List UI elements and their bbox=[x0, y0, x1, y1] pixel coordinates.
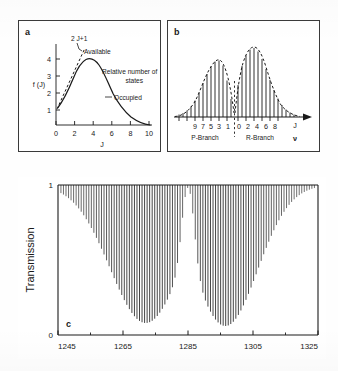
panel-b-r-tick-8: 8 bbox=[273, 122, 277, 131]
panel-c-plot: 1 0 Transmission c 1245 1265 bbox=[18, 177, 326, 359]
panel-b-plot: b bbox=[168, 21, 319, 151]
panel-a-xtick-4: 4 bbox=[91, 129, 95, 138]
panel-a-annotation-occupied: Occupied bbox=[114, 94, 142, 102]
panel-a-plot: a 1 2 3 4 0 2 bbox=[19, 21, 160, 151]
panel-a-xtick-2: 2 bbox=[73, 129, 77, 138]
panel-b-p-tick-9: 9 bbox=[193, 122, 197, 131]
panel-c-xtick-1245: 1245 bbox=[58, 342, 76, 351]
panel-a-x-axis-label: J bbox=[100, 140, 104, 149]
panel-b-p-tick-3: 3 bbox=[217, 122, 221, 131]
panel-b-axis-ticks bbox=[179, 117, 278, 121]
panel-b-r-tick-6: 6 bbox=[264, 122, 268, 131]
panel-a-ytick-2: 2 bbox=[47, 89, 51, 98]
panel-b-p-branch-sticks bbox=[179, 61, 231, 118]
panel-b-axis-symbol-j: J bbox=[293, 121, 297, 130]
panel-b-r-branch-label: R-Branch bbox=[246, 134, 274, 141]
panel-b-p-tick-5: 5 bbox=[209, 122, 213, 131]
panel-b-r-tick-2: 2 bbox=[246, 122, 250, 131]
panel-a-xtick-0: 0 bbox=[54, 129, 58, 138]
panel-b-p-tick-7: 7 bbox=[201, 122, 205, 131]
panel-b-p-branch-label: P-Branch bbox=[191, 134, 219, 141]
panel-b: b bbox=[167, 20, 320, 152]
panel-a-annotation-relative: Relative number of bbox=[102, 68, 158, 75]
panel-c-ytick-1: 1 bbox=[49, 181, 54, 190]
panel-b-axis-symbol-nu: ν bbox=[293, 134, 297, 143]
panel-c-xtick-1265: 1265 bbox=[114, 342, 132, 351]
panel-b-r-branch-sticks bbox=[238, 48, 294, 117]
panel-c-absorption-lines bbox=[61, 185, 314, 326]
panel-a-available-leader bbox=[77, 43, 82, 51]
panel-a-ytick-1: 1 bbox=[47, 106, 51, 115]
panel-a-letter: a bbox=[25, 27, 31, 37]
panel-a-y-ticks bbox=[56, 59, 60, 110]
panel-c-ytick-0: 0 bbox=[49, 331, 54, 340]
figure-container: a 1 2 3 4 0 2 bbox=[0, 0, 338, 371]
panel-c-x-major-ticks bbox=[58, 331, 318, 336]
panel-c-xtick-1325: 1325 bbox=[300, 342, 318, 351]
panel-b-p-tick-1: 1 bbox=[226, 122, 230, 131]
panel-c-y-axis-label: Transmission bbox=[24, 228, 36, 293]
panel-a-xtick-8: 8 bbox=[128, 129, 132, 138]
panel-a-annotation-relative-2: states bbox=[125, 77, 143, 84]
panel-b-r-envelope bbox=[235, 47, 300, 117]
panel-c-xtick-1285: 1285 bbox=[179, 342, 197, 351]
panel-a-ytick-4: 4 bbox=[47, 55, 51, 64]
panel-a-x-ticks bbox=[56, 121, 149, 125]
panel-a-xtick-10: 10 bbox=[145, 129, 153, 138]
panel-c-xtick-1305: 1305 bbox=[244, 342, 262, 351]
panel-a-y-axis-label: f (J) bbox=[33, 80, 45, 89]
panel-b-letter: b bbox=[174, 27, 180, 37]
panel-a-xtick-6: 6 bbox=[110, 129, 114, 138]
panel-a-annotation-degeneracy: 2 J+1 bbox=[71, 35, 88, 42]
panel-c: 1 0 Transmission c 1245 1265 bbox=[18, 177, 326, 359]
panel-a-annotation-available: Available bbox=[84, 48, 111, 55]
panel-a-available-line bbox=[57, 48, 85, 109]
panel-b-r-tick-4: 4 bbox=[255, 122, 259, 131]
panel-a-ytick-3: 3 bbox=[47, 72, 51, 81]
panel-c-letter: c bbox=[66, 319, 71, 329]
panel-b-p-envelope bbox=[175, 60, 234, 117]
panel-b-r-tick-0: 0 bbox=[237, 122, 241, 131]
panel-a: a 1 2 3 4 0 2 bbox=[18, 20, 161, 152]
